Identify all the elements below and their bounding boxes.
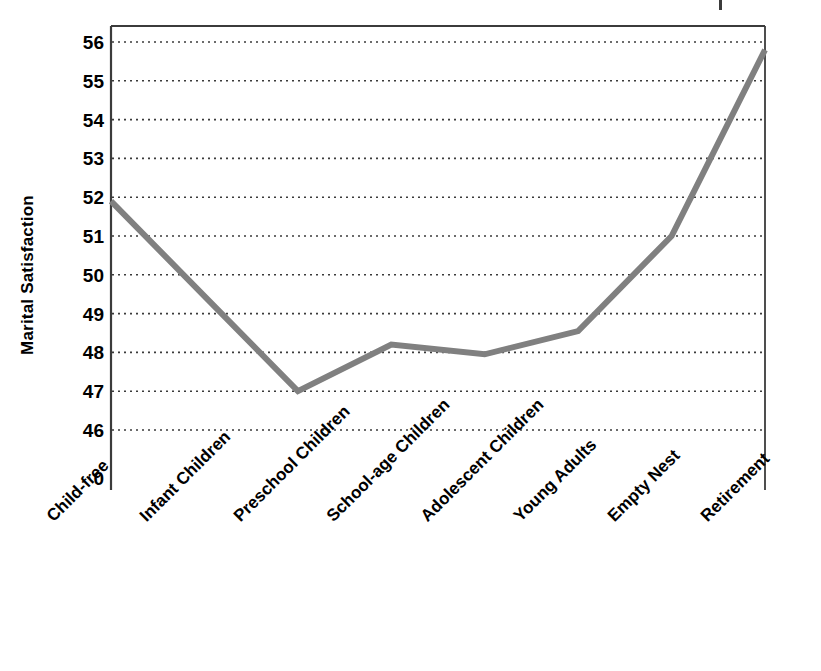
gridlines (112, 42, 765, 430)
cropped-text-artifact (719, 0, 722, 10)
data-series-line (111, 50, 765, 391)
x-axis-tick-labels: Child-freeInfant ChildrenPreschool Child… (0, 490, 821, 671)
line-chart: Marital Satisfaction 5655545352515049484… (0, 0, 821, 671)
